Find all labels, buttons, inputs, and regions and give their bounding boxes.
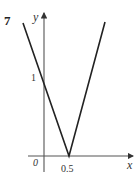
vertex-x-label: 0.5 (61, 163, 74, 174)
y-axis-label: y (32, 10, 39, 24)
origin-label: 0 (33, 157, 38, 168)
graph-diagram: 7 y x 1 0 0.5 (0, 0, 138, 176)
v-shaped-graph-line (23, 22, 105, 156)
x-axis-label: x (126, 158, 133, 172)
question-number: 7 (4, 13, 11, 28)
y-intercept-label: 1 (31, 72, 36, 83)
